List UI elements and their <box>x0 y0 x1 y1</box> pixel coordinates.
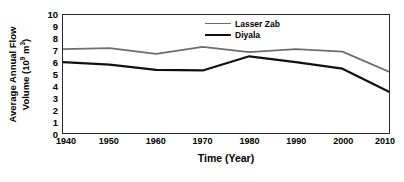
x-axis-tick-1950: 1950 <box>99 136 119 146</box>
x-axis-tick-1940: 1940 <box>56 136 76 146</box>
legend-label: Lasser Zab <box>235 19 280 29</box>
y-axis-tick-9: 9 <box>53 21 58 32</box>
y-axis-title-units-prefix: Volume (10 <box>20 60 31 110</box>
x-axis-tick-2000: 2000 <box>333 136 353 146</box>
x-axis-tick-1990: 1990 <box>286 136 306 146</box>
y-axis-title-units-mid: m <box>20 45 31 56</box>
legend: Lasser ZabDiyala <box>205 18 280 40</box>
x-axis-tick-1960: 1960 <box>146 136 166 146</box>
chart-figure: Average Annual Flow Volume (109 m3) 1098… <box>0 0 404 182</box>
y-axis-title-line2: Volume (109 m3) <box>20 26 33 122</box>
x-axis-title: Time (Year) <box>62 152 390 164</box>
x-axis-tick-1970: 1970 <box>193 136 213 146</box>
y-axis-title-line1: Average Annual Flow <box>8 26 19 122</box>
legend-item-diyala: Diyala <box>205 29 280 40</box>
legend-item-lasser-zab: Lasser Zab <box>205 18 280 29</box>
y-axis-tick-5: 5 <box>53 69 58 80</box>
y-axis-tick-6: 6 <box>53 57 58 68</box>
legend-swatch-icon <box>205 23 231 24</box>
legend-label: Diyala <box>235 30 260 40</box>
y-axis-tick-4: 4 <box>53 81 58 92</box>
y-axis-title-exponent-3: 3 <box>19 41 26 45</box>
y-axis-title-units-suffix: ) <box>20 38 31 41</box>
x-axis-tick-1980: 1980 <box>239 136 259 146</box>
y-axis-tick-2: 2 <box>53 105 58 116</box>
x-axis-tick-labels: 19401950196019701980199020002010 <box>62 136 390 150</box>
y-axis-tick-8: 8 <box>53 33 58 44</box>
y-axis-title: Average Annual Flow Volume (109 m3) <box>0 0 40 148</box>
y-axis-tick-labels: 109876543210 <box>40 14 60 134</box>
legend-swatch-icon <box>205 34 231 36</box>
y-axis-title-exponent-9: 9 <box>19 56 26 60</box>
y-axis-tick-3: 3 <box>53 93 58 104</box>
y-axis-tick-7: 7 <box>53 45 58 56</box>
y-axis-tick-1: 1 <box>53 117 58 128</box>
series-line-diyala <box>63 56 389 91</box>
x-axis-tick-2010: 2010 <box>375 136 395 146</box>
y-axis-tick-10: 10 <box>47 9 58 20</box>
